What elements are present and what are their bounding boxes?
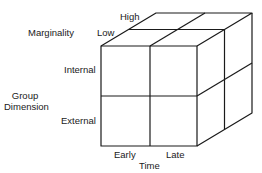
group-external-label: External	[61, 115, 96, 126]
group-axis-title-line1: Group	[4, 90, 46, 101]
group-axis-title-line2: Dimension	[4, 101, 46, 112]
time-axis-title: Time	[139, 160, 160, 171]
group-internal-label: Internal	[64, 64, 96, 75]
group-axis-title: Group Dimension	[4, 90, 46, 112]
marginality-high-label: High	[120, 11, 140, 22]
marginality-low-label: Low	[97, 27, 114, 38]
time-late-label: Late	[166, 149, 185, 160]
marginality-axis-title: Marginality	[28, 27, 74, 38]
time-early-label: Early	[114, 149, 136, 160]
cube-diagram	[0, 0, 262, 173]
